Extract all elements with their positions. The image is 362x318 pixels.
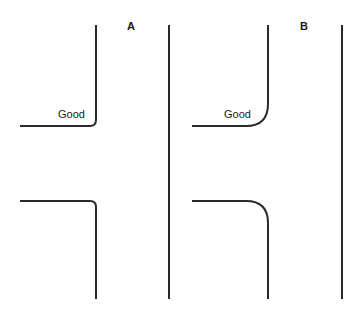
panel-a-bottom-curb [20,201,96,299]
panel-b-label: B [300,20,308,32]
panel-b-bottom-curb [192,201,268,299]
panel-a-label: A [127,20,135,32]
diagram-canvas [0,0,362,318]
panel-a-good-annotation: Good [58,108,85,120]
panel-b-good-annotation: Good [224,108,251,120]
